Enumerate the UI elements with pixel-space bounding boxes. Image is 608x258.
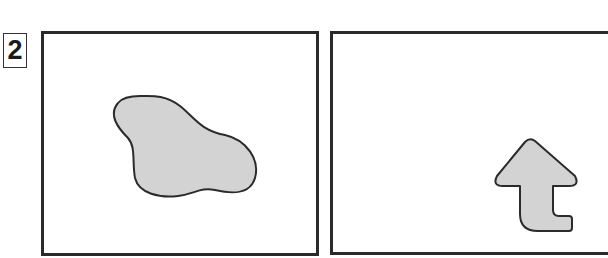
blob-shape — [114, 96, 256, 197]
arrow-up-hook-shape — [495, 139, 576, 231]
